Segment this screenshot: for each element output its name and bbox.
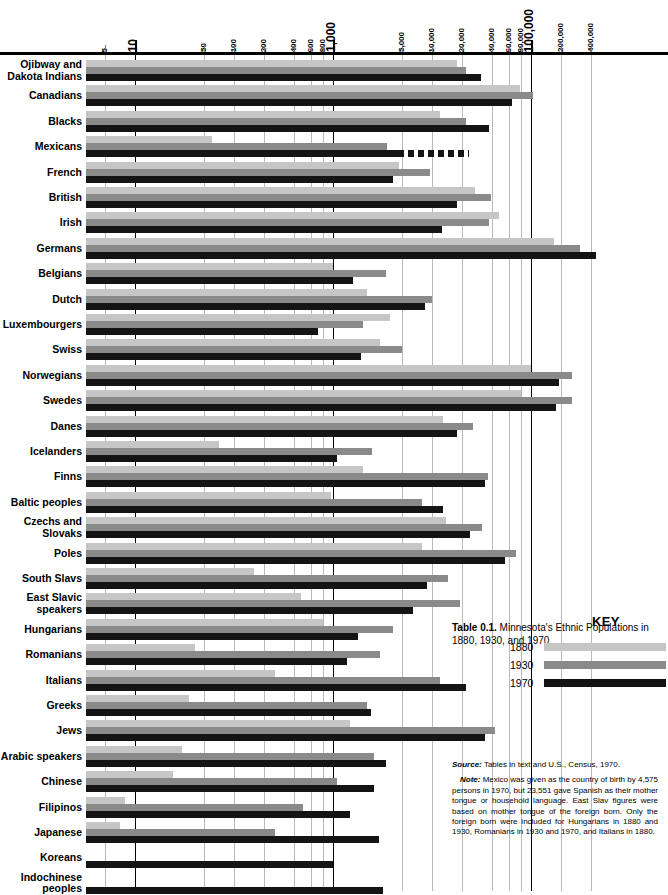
row-label: Japanese: [0, 827, 82, 839]
key-title: KEY: [592, 614, 620, 629]
bar-group: [86, 847, 333, 868]
notes-block: Source: Tables in text and U.S., Census,…: [452, 760, 658, 843]
bar-1880: [86, 466, 363, 473]
row-label-line2: speakers: [0, 604, 82, 616]
bar-1930: [86, 346, 402, 353]
bar-1930: [86, 778, 337, 785]
bar-1880: [86, 365, 531, 372]
bar-group: [86, 619, 393, 640]
bar-1880: [86, 85, 520, 92]
source-note: Source: Tables in text and U.S., Census,…: [452, 760, 658, 770]
bar-1970: [86, 277, 353, 284]
row-label: Swiss: [0, 344, 82, 356]
row-label-line1: East Slavic: [27, 591, 82, 603]
bar-group: [86, 314, 390, 335]
row-label-line1: Indochinese: [21, 871, 82, 883]
key-legend: 188019301970: [510, 638, 666, 692]
bar-1880: [86, 797, 125, 804]
bar-1930: [86, 499, 422, 506]
bar-group: [86, 136, 398, 157]
bar-group: [86, 85, 533, 106]
key-entry-year: 1930: [510, 659, 540, 671]
bar-1880: [86, 416, 443, 423]
key-entry: 1880: [510, 638, 666, 656]
bar-1930: [86, 423, 473, 430]
bar-group: [86, 263, 386, 284]
bar-group: [86, 390, 572, 411]
row-label: Icelanders: [0, 446, 82, 458]
key-entry: 1970: [510, 674, 666, 692]
row-label: Finns: [0, 471, 82, 483]
bar-1880: [86, 111, 440, 118]
bar-group: [86, 568, 448, 589]
row-label-line1: Canadians: [29, 89, 82, 101]
bar-1880: [86, 695, 189, 702]
source-text: Tables in text and U.S., Census, 1970.: [482, 760, 620, 769]
bar-1930: [86, 753, 374, 760]
bar-1930: [86, 296, 432, 303]
row-label-line1: Irish: [60, 216, 82, 228]
bar-group: [86, 339, 402, 360]
bar-1880: [86, 238, 554, 245]
bar-1970: [86, 328, 318, 335]
bar-group: [86, 441, 372, 462]
bar-1970: [86, 531, 470, 538]
note-label: Note:: [460, 775, 480, 784]
source-label: Source:: [452, 760, 482, 769]
row-label: Greeks: [0, 700, 82, 712]
row-label-line1: Danes: [50, 420, 82, 432]
bar-1880: [86, 289, 367, 296]
row-label: Norwegians: [0, 370, 82, 382]
bar-1930: [86, 804, 303, 811]
row-label-line1: Koreans: [40, 851, 82, 863]
bar-1970: [86, 125, 489, 132]
row-label-line1: Italians: [46, 674, 82, 686]
bar-1930: [86, 92, 533, 99]
row-label: Italians: [0, 675, 82, 687]
bar-1930: [86, 677, 440, 684]
bar-1970: [86, 480, 485, 487]
bar-group: [86, 162, 430, 183]
row-label-line1: Belgians: [38, 267, 82, 279]
bar-1930: [86, 219, 489, 226]
bar-1930: [86, 397, 572, 404]
row-label-line1: Mexicans: [35, 140, 82, 152]
row-label: Arabic speakers: [0, 751, 82, 763]
bar-1880: [86, 60, 457, 67]
bar-1970: [86, 353, 361, 360]
key-entry-year: 1970: [510, 677, 540, 689]
bar-1930: [86, 575, 448, 582]
row-label: Ojibway andDakota Indians: [0, 59, 82, 82]
bar-1970: [86, 379, 559, 386]
bar-1970: [86, 684, 466, 691]
row-label: Baltic peoples: [0, 497, 82, 509]
row-label-line2: peoples: [0, 883, 82, 895]
bar-1970: [86, 506, 443, 513]
bar-group: [86, 771, 374, 792]
bar-1970: [86, 303, 425, 310]
row-label: Canadians: [0, 90, 82, 102]
row-label-line1: Chinese: [41, 775, 82, 787]
bar-group: [86, 289, 432, 310]
bar-1970: [86, 811, 350, 818]
row-label: Dutch: [0, 294, 82, 306]
bar-1930: [86, 550, 516, 557]
row-label-line1: Japanese: [34, 826, 82, 838]
bar-1930: [86, 702, 367, 709]
bar-1930: [86, 118, 466, 125]
bar-1880: [86, 822, 120, 829]
row-label-line1: Swiss: [52, 343, 82, 355]
bar-group: [86, 720, 495, 741]
bar-1930: [86, 524, 482, 531]
table-caption-label: Table 0.1.: [452, 622, 497, 633]
bar-1930: [86, 194, 491, 201]
row-label-line1: Jews: [56, 724, 82, 736]
row-label-line1: Icelanders: [30, 445, 82, 457]
bar-1970: [86, 455, 337, 462]
bar-1930: [86, 448, 372, 455]
bar-1880: [86, 314, 390, 321]
bar-group: [86, 695, 371, 716]
bar-1930: [86, 727, 495, 734]
bar-1970: [86, 658, 347, 665]
bar-group: [86, 187, 491, 208]
